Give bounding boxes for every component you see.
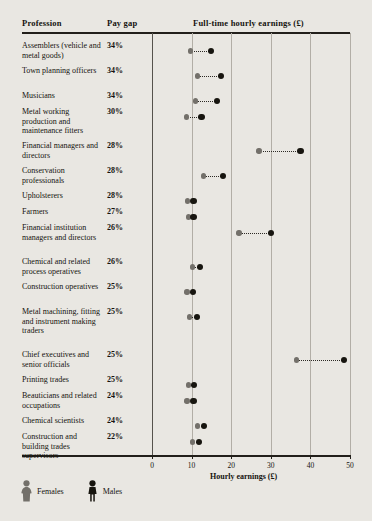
pay-gap-value: 25% [107,307,123,316]
pay-gap-value: 24% [107,416,123,425]
profession-label: Beauticians and related occupations [22,391,104,410]
table-row: Financial institution managers and direc… [0,223,372,257]
pay-gap-value: 28% [107,191,123,200]
pay-gap-value: 30% [107,107,123,116]
profession-label: Chemical and related process operatives [22,257,104,276]
table-row: Beauticians and related occupations24% [0,391,372,416]
pay-gap-value: 24% [107,391,123,400]
male-figure-icon [86,480,99,502]
table-row: Town planning officers34% [0,66,372,91]
pay-gap-value: 25% [107,375,123,384]
table-row: Conservation professionals28% [0,166,372,191]
legend-label-females: Females [37,487,64,496]
table-row: Chemical and related process operatives2… [0,257,372,282]
header-rule [22,32,350,34]
profession-label: Conservation professionals [22,166,104,185]
pay-gap-value: 22% [107,432,123,441]
profession-label: Financial managers and directors [22,141,104,160]
chart-page: Profession Pay gap Full-time hourly earn… [0,0,372,521]
table-row: Construction and building trades supervi… [0,432,372,466]
profession-label: Construction and building trades supervi… [22,432,104,461]
column-header-pay-gap: Pay gap [107,18,137,28]
profession-label: Construction operatives [22,282,104,292]
pay-gap-value: 25% [107,350,123,359]
profession-label: Town planning officers [22,66,104,76]
table-row: Construction operatives25% [0,282,372,307]
table-row: Chief executives and senior officials25% [0,350,372,375]
female-figure-icon [20,480,33,502]
table-row: Upholsterers28% [0,191,372,207]
pay-gap-value: 27% [107,207,123,216]
pay-gap-value: 28% [107,166,123,175]
pay-gap-value: 28% [107,141,123,150]
profession-label: Metal working production and maintenance… [22,107,104,136]
pay-gap-value: 26% [107,257,123,266]
table-row: Printing trades25% [0,375,372,391]
table-row: Assemblers (vehicle and metal goods)34% [0,41,372,66]
table-row: Financial managers and directors28% [0,141,372,166]
x-axis-title: Hourly earnings (£) [210,472,277,481]
profession-label: Assemblers (vehicle and metal goods) [22,41,104,60]
pay-gap-value: 34% [107,66,123,75]
profession-label: Printing trades [22,375,104,385]
profession-label: Upholsterers [22,191,104,201]
table-row: Farmers27% [0,207,372,223]
pay-gap-value: 26% [107,223,123,232]
chart-title: Full-time hourly earnings (£) [193,18,304,28]
table-row: Chemical scientists24% [0,416,372,432]
pay-gap-value: 34% [107,91,123,100]
profession-label: Chief executives and senior officials [22,350,104,369]
legend-item-females: Females [20,480,64,502]
legend-label-males: Males [103,487,123,496]
column-header-profession: Profession [22,18,62,28]
profession-label: Musicians [22,91,104,101]
legend-item-males: Males [86,480,123,502]
profession-label: Metal machining, fitting and instrument … [22,307,104,336]
profession-label: Financial institution managers and direc… [22,223,104,242]
pay-gap-value: 34% [107,41,123,50]
legend: Females Males [20,480,122,502]
profession-label: Chemical scientists [22,416,104,426]
table-row: Musicians34% [0,91,372,107]
table-row: Metal working production and maintenance… [0,107,372,141]
profession-label: Farmers [22,207,104,217]
pay-gap-value: 25% [107,282,123,291]
table-row: Metal machining, fitting and instrument … [0,307,372,350]
